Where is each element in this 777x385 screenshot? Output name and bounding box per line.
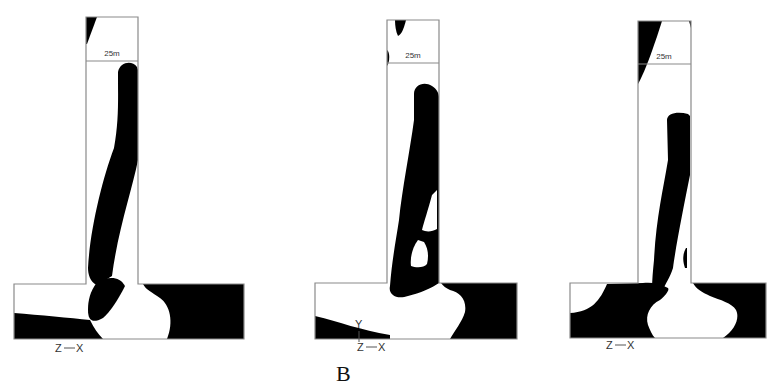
- solid-material-region: [683, 248, 687, 268]
- axis-label-x: X: [76, 342, 84, 354]
- axis-label-x: X: [378, 341, 386, 353]
- axis-label-y: Y: [355, 318, 363, 330]
- axis-label-z: Z: [357, 341, 364, 353]
- solid-material-region: [88, 278, 125, 321]
- solid-material-region: [143, 284, 244, 339]
- dimension-label: 25m: [405, 51, 421, 60]
- solid-material-region: [86, 17, 97, 44]
- structure-panel-1: 25mZX: [14, 17, 244, 354]
- dimension-label: 25m: [104, 49, 120, 58]
- structure-panel-2: 25mZXY: [315, 20, 517, 353]
- solid-material-region: [693, 283, 766, 338]
- axis-label-z: Z: [55, 342, 62, 354]
- axis-label-z: Z: [606, 339, 613, 351]
- figure-caption-label: B: [336, 361, 351, 385]
- solid-material-region: [88, 63, 138, 285]
- solid-material-region: [395, 20, 406, 36]
- structure-panel-3: 25mZX: [570, 21, 766, 351]
- solid-material-region: [441, 283, 517, 339]
- solid-material-region: [315, 316, 390, 339]
- dimension-label: 25m: [656, 52, 672, 61]
- topology-optimization-figure: 25mZX25mZXY25mZX B: [0, 0, 777, 385]
- axis-triad-icon: ZX: [55, 342, 84, 354]
- axis-label-x: X: [627, 339, 635, 351]
- axis-triad-icon: ZX: [606, 339, 635, 351]
- solid-material-region: [570, 283, 668, 338]
